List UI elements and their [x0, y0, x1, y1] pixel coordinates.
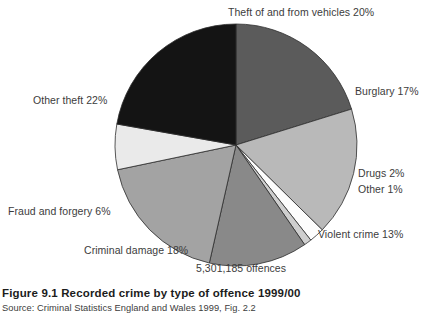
pie-chart-svg — [0, 0, 444, 326]
slice-label-criminal-damage: Criminal damage 18% — [84, 244, 188, 256]
slice-label-fraud-and-forgery: Fraud and forgery 6% — [8, 205, 111, 217]
slice-label-burglary: Burglary 17% — [355, 85, 419, 97]
slice-label-drugs: Drugs 2% — [358, 167, 405, 179]
slice-label-other-theft: Other theft 22% — [33, 94, 107, 106]
slice-label-other: Other 1% — [358, 183, 403, 195]
figure-source: Source: Criminal Statistics England and … — [2, 303, 442, 313]
caption-block: Figure 9.1 Recorded crime by type of off… — [2, 287, 442, 313]
figure-container: Theft of and from vehicles 20% Burglary … — [0, 0, 444, 326]
figure-caption: Figure 9.1 Recorded crime by type of off… — [2, 287, 442, 299]
total-offences-label: 5,301,185 offences — [196, 262, 286, 274]
slice-label-violent-crime: Violent crime 13% — [318, 228, 403, 240]
slice-label-theft-of-and-from-vehicles: Theft of and from vehicles 20% — [228, 6, 374, 18]
pie-chart — [0, 0, 444, 326]
pie-slice-other-theft — [117, 24, 236, 145]
